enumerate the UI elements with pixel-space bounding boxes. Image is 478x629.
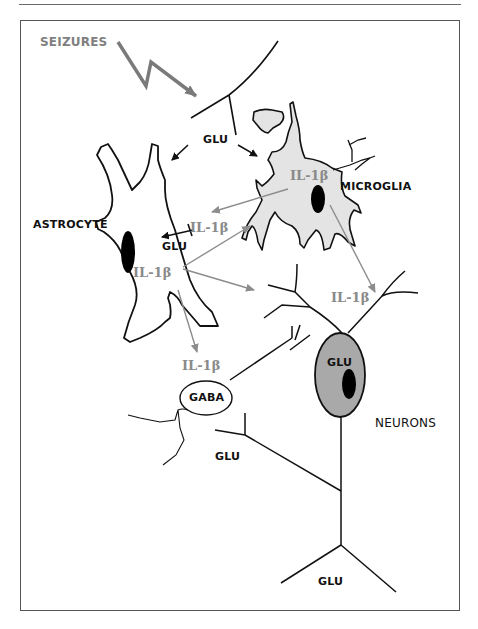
glu-arrow-to-microglia xyxy=(238,145,257,156)
label-gaba: GABA xyxy=(189,391,224,404)
astrocyte-cell xyxy=(96,144,218,342)
label-astrocyte: ASTROCYTE xyxy=(33,218,108,231)
neuron-nucleus xyxy=(342,369,356,399)
label-il1b-between: IL-1β xyxy=(190,220,228,235)
seizure-lightning-arrow xyxy=(118,42,196,96)
label-seizures: SEIZURES xyxy=(40,35,107,49)
label-microglia: MICROGLIA xyxy=(340,180,411,193)
label-glu-astrocyte: GLU xyxy=(162,240,187,253)
label-glu-lower-left: GLU xyxy=(215,450,240,463)
label-neurons: NEURONS xyxy=(375,416,436,430)
microglia-process xyxy=(333,138,375,170)
label-glu-neuron-soma: GLU xyxy=(327,356,352,369)
diagram-canvas xyxy=(0,0,478,629)
glu-arrow-to-astrocyte xyxy=(172,145,188,160)
microglia-nucleus xyxy=(311,185,325,213)
label-il1b-neuron: IL-1β xyxy=(331,290,369,305)
neuron-soma xyxy=(315,333,365,417)
label-il1b-microglia: IL-1β xyxy=(290,168,328,183)
gaba-process xyxy=(128,409,188,465)
label-glu-top: GLU xyxy=(203,133,228,146)
label-il1b-gaba: IL-1β xyxy=(182,358,220,373)
label-il1b-astrocyte: IL-1β xyxy=(133,265,171,280)
neuron-axon xyxy=(215,326,396,592)
label-glu-bottom: GLU xyxy=(318,575,343,588)
